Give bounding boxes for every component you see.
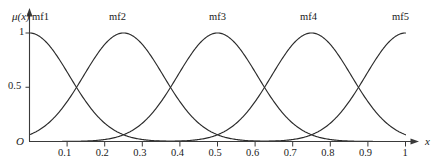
x-tick-label-0.7: 0.7 <box>284 148 297 159</box>
y-axis-ticks <box>26 33 30 87</box>
x-tick-label-0.1: 0.1 <box>58 148 71 159</box>
x-tick-label-0.2: 0.2 <box>96 148 109 159</box>
curve-label-mf3: mf3 <box>209 12 226 23</box>
curve-mf1 <box>30 33 406 142</box>
curve-mf5 <box>30 33 406 142</box>
curve-mf3 <box>30 33 406 142</box>
x-axis-arrowhead <box>411 138 420 144</box>
curve-label-mf5: mf5 <box>392 12 409 23</box>
curves-group <box>30 33 406 142</box>
x-tick-label-0.9: 0.9 <box>359 148 372 159</box>
x-tick-label-0.5: 0.5 <box>209 148 222 159</box>
curve-mf2 <box>30 33 406 142</box>
curve-label-mf4: mf4 <box>300 12 317 23</box>
y-axis-label: μ(x) <box>12 11 30 22</box>
x-tick-label-1: 1 <box>403 148 408 159</box>
x-axis-label: x <box>425 136 430 147</box>
x-tick-label-0.6: 0.6 <box>246 148 259 159</box>
y-tick-label-1: 1 <box>19 27 24 38</box>
curve-label-mf2: mf2 <box>109 12 126 23</box>
x-tick-label-0.4: 0.4 <box>171 148 184 159</box>
curve-label-mf1: mf1 <box>32 12 49 23</box>
axes-group <box>26 8 420 147</box>
y-tick-label-0.5: 0.5 <box>8 81 21 92</box>
chart-canvas <box>0 0 435 166</box>
curve-mf4 <box>30 33 406 142</box>
membership-function-chart: μ(x) x O 1 0.5 mf1 mf2 mf3 mf4 mf5 0.10.… <box>0 0 435 166</box>
x-tick-label-0.8: 0.8 <box>321 148 334 159</box>
x-axis-ticks <box>67 142 405 147</box>
origin-label: O <box>16 136 24 147</box>
x-tick-label-0.3: 0.3 <box>133 148 146 159</box>
